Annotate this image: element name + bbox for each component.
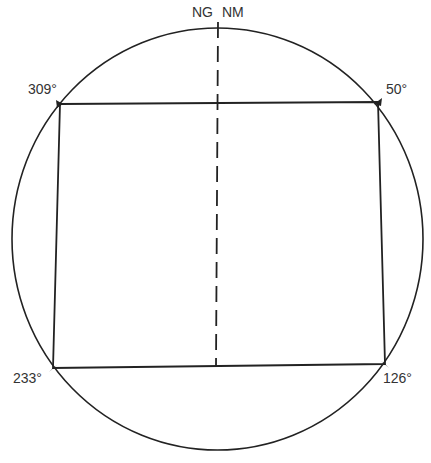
bearing-label-50: 50°: [386, 81, 407, 97]
magnetic-north-label: NM: [222, 4, 244, 20]
bearing-label-233: 233°: [13, 370, 42, 386]
bearing-label-126: 126°: [383, 370, 412, 386]
bearing-label-309: 309°: [28, 81, 57, 97]
traverse-quadrilateral: [53, 102, 385, 368]
compass-diagram: [0, 0, 431, 463]
grid-north-label: NG: [192, 4, 213, 20]
north-line-dashed: [216, 22, 218, 366]
